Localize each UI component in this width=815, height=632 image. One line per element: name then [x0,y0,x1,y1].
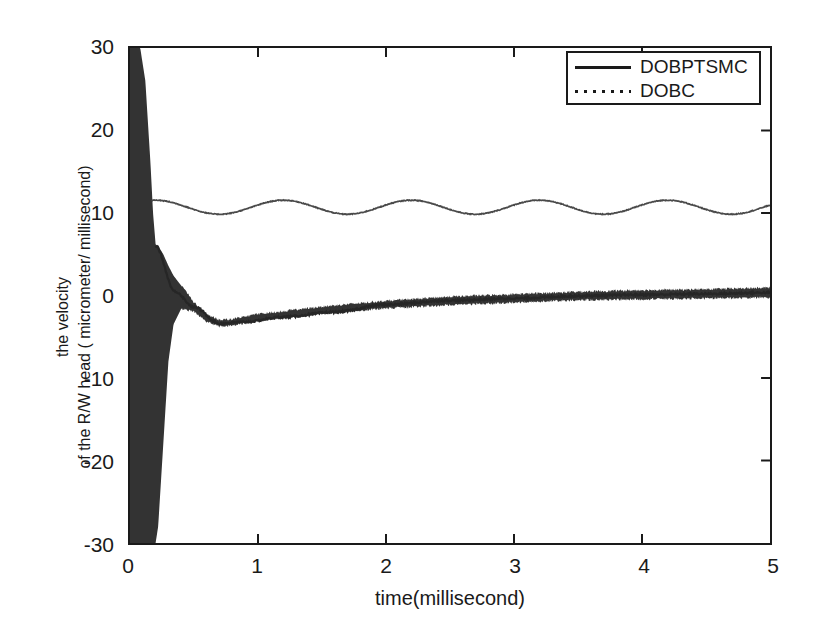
legend-entry-dobc: DOBC [568,79,759,103]
legend-box: DOBPTSMC DOBC [566,51,761,105]
x-tick-label-4: 4 [624,555,664,576]
series-dobptsmc-chatter-band [130,48,770,543]
curves-svg [130,48,770,543]
x-tick-label-5: 5 [753,555,793,576]
x-tick-label-2: 2 [366,555,406,576]
legend-line-sample-dotted-icon [575,84,631,98]
legend-line-sample-solid-icon [575,60,631,74]
figure-canvas: 30 20 10 0 -10 -20 -30 0 1 2 3 4 5 time(… [0,0,815,632]
series-dobc-line [152,200,770,215]
y-axis-title-line2: of the R/W head ( micrometer/ millisecon… [74,67,96,567]
x-tick-label-3: 3 [495,555,535,576]
legend-entry-dobptsmc: DOBPTSMC [568,55,759,79]
y-tick-label-30: 30 [52,36,114,57]
y-axis-title: the velocity of the R/W head ( micromete… [52,67,96,567]
x-tick-label-0: 0 [108,555,148,576]
legend-label-dobptsmc: DOBPTSMC [640,56,748,78]
x-axis-title: time(millisecond) [128,587,772,610]
plot-area [128,46,772,545]
y-axis-title-line1: the velocity [52,67,74,567]
x-tick-label-1: 1 [237,555,277,576]
scan-bleedthrough-text [395,6,795,28]
series-dobptsmc-line [156,246,770,325]
legend-label-dobc: DOBC [640,80,695,102]
